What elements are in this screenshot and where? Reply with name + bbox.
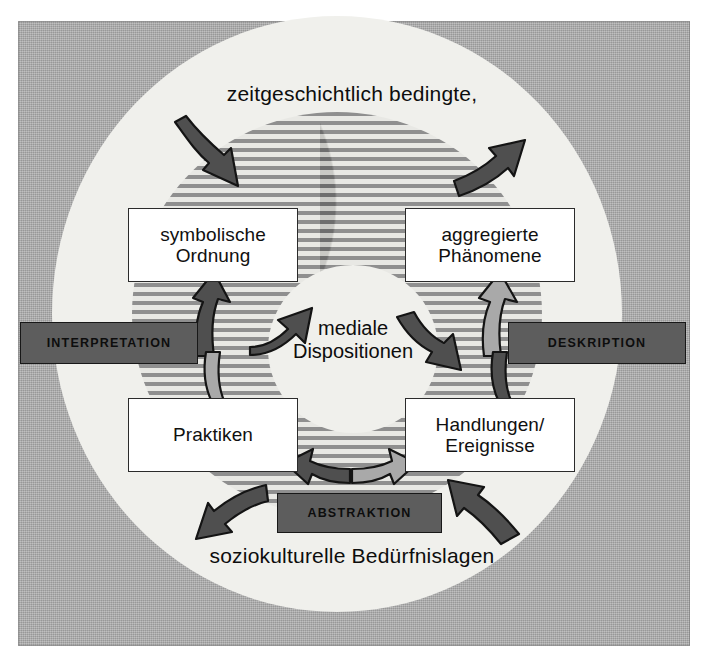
box-tr-line1: aggregierte (441, 224, 538, 245)
label-top-condition: zeitgeschichtlich bedingte, (0, 82, 704, 106)
label-bottom-condition: soziokulturelle Bedürfnislagen (0, 544, 704, 568)
box-tl-line2: Ordnung (176, 245, 251, 266)
box-br-line2: Ereignisse (445, 435, 535, 456)
center-label-line1: mediale (318, 317, 388, 339)
box-aggregierte-phaenomene[interactable]: aggregierte Phänomene (405, 208, 575, 282)
box-handlungen-ereignisse[interactable]: Handlungen/ Ereignisse (405, 398, 575, 472)
banner-interpretation[interactable]: INTERPRETATION (20, 322, 198, 364)
box-br-line1: Handlungen/ (436, 414, 545, 435)
banner-interpretation-label: INTERPRETATION (47, 336, 172, 350)
box-praktiken[interactable]: Praktiken (128, 398, 298, 472)
banner-deskription[interactable]: DESKRIPTION (508, 322, 686, 364)
banner-abstraktion[interactable]: ABSTRAKTION (277, 493, 442, 533)
box-tl-line1: symbolische (160, 224, 266, 245)
box-symbolische-ordnung[interactable]: symbolische Ordnung (128, 208, 298, 282)
center-label-line2: Dispositionen (293, 340, 413, 362)
diagram-figure: .dk { fill:#4f4f4f; stroke:#141414; stro… (0, 0, 704, 667)
banner-deskription-label: DESKRIPTION (548, 336, 647, 350)
center-label: mediale Dispositionen (253, 317, 453, 363)
box-tr-line2: Phänomene (438, 245, 541, 266)
box-bl-line1: Praktiken (173, 424, 253, 445)
banner-abstraktion-label: ABSTRAKTION (307, 506, 411, 520)
